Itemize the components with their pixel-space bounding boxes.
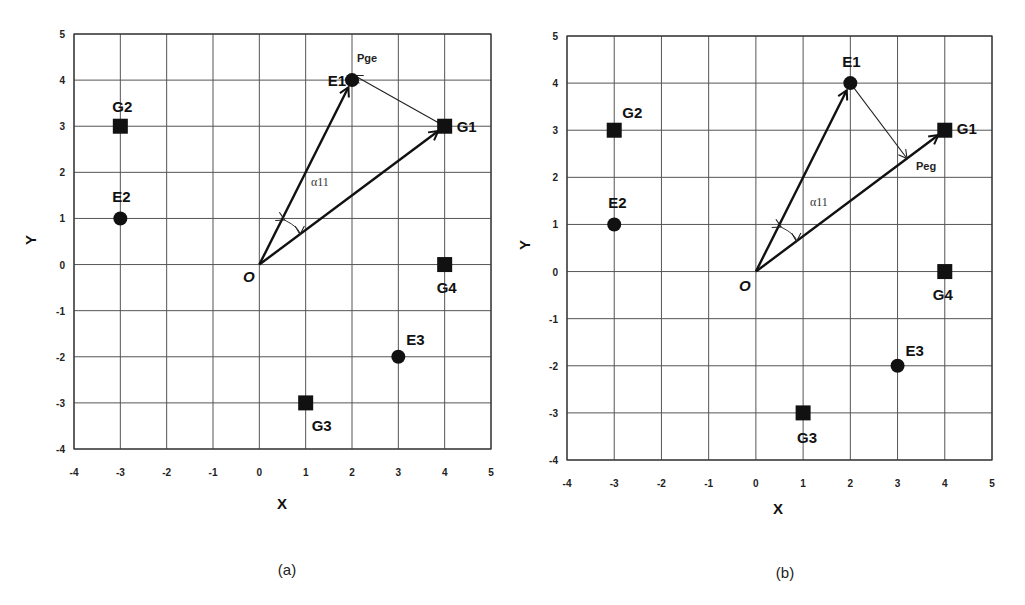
goal-marker <box>113 119 128 134</box>
point-label: G4 <box>933 286 954 303</box>
x-tick-label: -3 <box>116 467 125 478</box>
goal-marker <box>937 264 952 279</box>
goal-marker <box>298 395 313 410</box>
point-label: E3 <box>906 342 924 359</box>
point-label: E3 <box>406 331 424 348</box>
y-tick-label: 0 <box>552 267 558 278</box>
y-tick-label: 2 <box>59 167 65 178</box>
point-label: G2 <box>622 104 642 121</box>
y-tick-label: 3 <box>59 121 65 132</box>
x-tick-label: 5 <box>488 467 494 478</box>
point-label: G2 <box>112 98 132 115</box>
y-tick-label: 0 <box>59 260 65 271</box>
vector-arrow <box>259 87 348 264</box>
grid <box>74 34 491 449</box>
data-points: E1E2E3G1G2G3G4 <box>607 53 977 446</box>
y-tick-label: -4 <box>549 455 558 466</box>
x-tick-label: -3 <box>610 478 619 489</box>
x-tick-label: 3 <box>396 467 402 478</box>
vector-label: Pge <box>357 52 377 64</box>
point-label: G1 <box>457 118 477 135</box>
origin-label: O <box>739 277 751 294</box>
point-label: G1 <box>957 120 977 137</box>
vector-label: Peg <box>916 160 936 172</box>
vector-arrow <box>756 135 938 272</box>
plot-frame <box>74 34 491 449</box>
y-tick-label: -1 <box>549 314 558 325</box>
y-tick-label: -3 <box>549 408 558 419</box>
caption-b: (b) <box>776 564 794 581</box>
point-label: E1 <box>842 53 860 70</box>
x-axis-label: X <box>773 500 783 517</box>
point-label: G4 <box>437 279 458 296</box>
chart-panel-a: -4-3-2-1012345-4-3-2-1012345XYPgeα11OE1E… <box>22 29 494 512</box>
point-label: E1 <box>328 72 346 89</box>
angle-arc <box>781 227 796 241</box>
point-label: G3 <box>797 429 817 446</box>
goal-marker <box>796 405 811 420</box>
goal-marker <box>937 123 952 138</box>
y-axis-label: Y <box>516 240 533 250</box>
entity-marker <box>891 359 905 373</box>
x-tick-label: -1 <box>209 467 218 478</box>
caption-a: (a) <box>278 561 296 578</box>
y-tick-label: 5 <box>552 31 558 42</box>
x-tick-label: -4 <box>70 467 79 478</box>
vector-arrow <box>259 131 438 265</box>
entity-marker <box>391 350 405 364</box>
y-tick-label: 4 <box>552 78 558 89</box>
y-tick-label: -4 <box>56 444 65 455</box>
entity-marker <box>345 73 359 87</box>
y-tick-label: 5 <box>59 29 65 40</box>
x-tick-label: 3 <box>895 478 901 489</box>
y-tick-label: -2 <box>549 361 558 372</box>
x-tick-label: 0 <box>257 467 263 478</box>
point-label: E2 <box>608 194 626 211</box>
y-tick-label: 1 <box>59 213 65 224</box>
y-tick-label: -3 <box>56 398 65 409</box>
entity-marker <box>113 211 127 225</box>
plot-frame <box>567 36 992 460</box>
x-tick-label: -4 <box>563 478 572 489</box>
angle-label: α11 <box>311 175 329 189</box>
goal-marker <box>437 119 452 134</box>
origin-label: O <box>243 268 255 285</box>
entity-marker <box>843 76 857 90</box>
x-tick-label: 1 <box>303 467 309 478</box>
projection-arrow <box>354 76 444 127</box>
x-tick-label: 5 <box>989 478 995 489</box>
x-tick-label: 4 <box>942 478 948 489</box>
y-tick-label: 1 <box>552 219 558 230</box>
figure-canvas: -4-3-2-1012345-4-3-2-1012345XYPgeα11OE1E… <box>0 0 1025 605</box>
x-tick-label: 4 <box>442 467 448 478</box>
y-tick-label: 2 <box>552 172 558 183</box>
entity-marker <box>607 217 621 231</box>
angle-arc <box>285 220 300 234</box>
x-tick-label: 2 <box>848 478 854 489</box>
x-tick-label: 2 <box>349 467 355 478</box>
y-tick-label: -1 <box>56 306 65 317</box>
x-tick-label: -2 <box>657 478 666 489</box>
goal-marker <box>607 123 622 138</box>
angle-label: α11 <box>810 195 828 209</box>
goal-marker <box>437 257 452 272</box>
x-tick-label: -2 <box>162 467 171 478</box>
y-tick-label: 3 <box>552 125 558 136</box>
y-axis-label: Y <box>22 235 39 245</box>
x-tick-label: 0 <box>753 478 759 489</box>
point-label: E2 <box>112 188 130 205</box>
projection-arrow <box>850 83 907 158</box>
chart-panel-b: -4-3-2-1012345-4-3-2-1012345XYPegα11OE1E… <box>516 31 995 517</box>
point-label: G3 <box>312 417 332 434</box>
y-tick-label: 4 <box>59 75 65 86</box>
x-tick-label: 1 <box>800 478 806 489</box>
grid <box>567 36 992 460</box>
x-axis-label: X <box>277 495 287 512</box>
vector-arrow <box>756 90 847 271</box>
y-tick-label: -2 <box>56 352 65 363</box>
x-tick-label: -1 <box>704 478 713 489</box>
